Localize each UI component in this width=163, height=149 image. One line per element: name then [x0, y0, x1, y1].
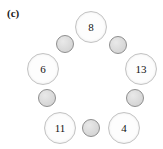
numbered-node: 11	[44, 112, 76, 144]
numbered-node: 8	[75, 11, 107, 43]
figure-panel: (c) 8134116	[0, 0, 163, 149]
shaded-node	[126, 89, 144, 107]
shaded-node	[82, 119, 100, 137]
shaded-node	[109, 36, 127, 54]
numbered-node: 4	[108, 112, 140, 144]
panel-label: (c)	[7, 8, 19, 19]
numbered-node: 6	[27, 53, 59, 85]
numbered-node: 13	[125, 53, 157, 85]
shaded-node	[56, 35, 74, 53]
shaded-node	[38, 89, 56, 107]
